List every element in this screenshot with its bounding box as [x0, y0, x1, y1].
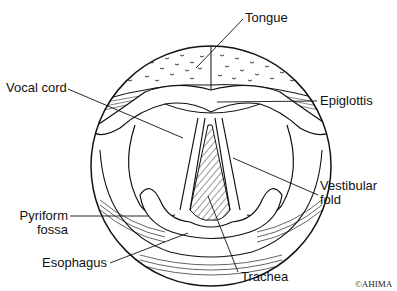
larynx-diagram: Tongue Vocal cord Epiglottis Vestibular …	[0, 0, 397, 291]
label-epiglottis: Epiglottis	[320, 94, 373, 108]
label-vestibular-fold-line1: Vestibular	[320, 179, 377, 193]
larynx-illustration	[0, 0, 397, 291]
label-vestibular-fold-line2: fold	[320, 193, 377, 207]
label-esophagus: Esophagus	[42, 256, 107, 270]
label-tongue: Tongue	[245, 11, 288, 25]
larynx-view	[80, 45, 340, 275]
label-trachea: Trachea	[241, 270, 288, 284]
label-pyriform-fossa-line2: fossa	[18, 223, 68, 237]
label-vestibular-fold: Vestibular fold	[320, 179, 377, 207]
label-pyriform-fossa-line1: Pyriform	[18, 209, 68, 223]
label-vocal-cord: Vocal cord	[6, 81, 67, 95]
label-pyriform-fossa: Pyriform fossa	[18, 209, 68, 237]
copyright-notice: ©AHIMA	[355, 279, 392, 289]
